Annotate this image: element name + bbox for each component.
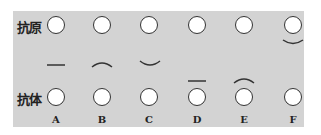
line-c-arc-down	[140, 61, 160, 65]
column-label-c: C	[139, 114, 159, 125]
column-label-a: A	[46, 114, 66, 125]
line-f-arc-down	[283, 40, 303, 44]
line-e-arc-up	[234, 79, 254, 83]
column-label-f: F	[283, 114, 303, 125]
column-label-b: B	[92, 114, 112, 125]
line-b-arc-up	[92, 63, 112, 67]
column-label-d: D	[187, 114, 207, 125]
column-label-e: E	[234, 114, 254, 125]
